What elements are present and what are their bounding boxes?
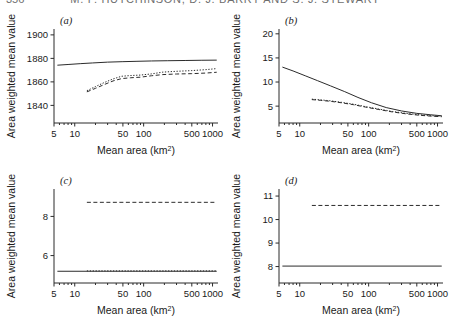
x-tick-label: 100 — [136, 288, 152, 299]
panel-a-plot: 1840186018801900510501005001000(a)Mean a… — [0, 11, 225, 170]
y-tick-label: 11 — [263, 190, 273, 201]
x-tick-label: 500 — [409, 288, 425, 299]
panel-label: (a) — [60, 15, 73, 27]
series-solid-upper — [57, 60, 216, 65]
x-tick-label: 5 — [51, 288, 56, 299]
y-tick-label: 9 — [268, 237, 273, 248]
x-tick-label: 10 — [294, 288, 305, 299]
x-tick-label: 10 — [69, 288, 80, 299]
running-header: 356 M. F. HUTCHINSON, D. J. BARRY AND S.… — [0, 0, 450, 11]
x-tick-label: 500 — [184, 288, 200, 299]
x-tick-label: 100 — [361, 288, 377, 299]
y-tick-label: 10 — [262, 76, 273, 87]
x-tick-label: 5 — [51, 128, 56, 139]
x-axis-title: Mean area (km2) — [322, 144, 400, 156]
panel-d: 891011510501005001000(d)Mean area (km2)A… — [225, 171, 450, 330]
x-tick-label: 5 — [276, 288, 281, 299]
x-tick-label: 500 — [184, 128, 200, 139]
x-axis-title: Mean area (km2) — [322, 304, 400, 316]
series-solid-upper — [282, 67, 441, 116]
x-axis-title: Mean area (km2) — [97, 144, 175, 156]
panel-b-plot: 5101520510501005001000(b)Mean area (km2)… — [225, 11, 450, 170]
y-tick-label: 8 — [268, 261, 273, 272]
x-tick-label: 1000 — [427, 128, 448, 139]
y-tick-label: 8 — [43, 211, 48, 222]
x-tick-label: 50 — [118, 288, 129, 299]
figure-panel-grid: 1840186018801900510501005001000(a)Mean a… — [0, 11, 450, 330]
y-tick-label: 10 — [262, 214, 273, 225]
y-tick-label: 5 — [268, 101, 273, 112]
axis-spines — [279, 189, 443, 283]
y-tick-label: 1880 — [27, 53, 48, 64]
y-tick-label: 6 — [43, 250, 48, 261]
panel-label: (b) — [285, 15, 298, 27]
series-dotted-middle — [87, 69, 217, 91]
y-tick-label: 20 — [262, 28, 273, 39]
y-axis-title: Area weighted mean value — [5, 174, 17, 298]
x-tick-label: 100 — [361, 128, 377, 139]
axis-spines — [54, 189, 218, 283]
y-tick-label: 1840 — [27, 100, 48, 111]
x-tick-label: 50 — [118, 128, 129, 139]
axis-spines — [54, 29, 218, 123]
y-tick-label: 15 — [262, 52, 273, 63]
x-axis-title: Mean area (km2) — [97, 304, 175, 316]
panel-c-plot: 68510501005001000(c)Mean area (km2)Area … — [0, 171, 225, 330]
panel-label: (d) — [285, 175, 298, 187]
x-tick-label: 5 — [276, 128, 281, 139]
x-tick-label: 10 — [69, 128, 80, 139]
y-tick-label: 1860 — [27, 76, 48, 87]
panel-label: (c) — [60, 175, 72, 187]
x-tick-label: 1000 — [202, 128, 223, 139]
y-tick-label: 1900 — [27, 29, 48, 40]
panel-a: 1840186018801900510501005001000(a)Mean a… — [0, 11, 225, 170]
panel-d-plot: 891011510501005001000(d)Mean area (km2)A… — [225, 171, 450, 330]
x-tick-label: 10 — [294, 128, 305, 139]
x-tick-label: 1000 — [427, 288, 448, 299]
axis-spines — [279, 29, 443, 123]
x-tick-label: 50 — [343, 128, 354, 139]
panel-b: 5101520510501005001000(b)Mean area (km2)… — [225, 11, 450, 170]
running-title: M. F. HUTCHINSON, D. J. BARRY AND S. J. … — [0, 0, 450, 5]
x-tick-label: 500 — [409, 128, 425, 139]
y-axis-title: Area weighted mean value — [5, 14, 17, 138]
x-tick-label: 100 — [136, 128, 152, 139]
x-tick-label: 1000 — [202, 288, 223, 299]
y-axis-title: Area weighted mean value — [230, 174, 242, 298]
x-tick-label: 50 — [343, 288, 354, 299]
panel-c: 68510501005001000(c)Mean area (km2)Area … — [0, 171, 225, 330]
y-axis-title: Area weighted mean value — [230, 14, 242, 138]
